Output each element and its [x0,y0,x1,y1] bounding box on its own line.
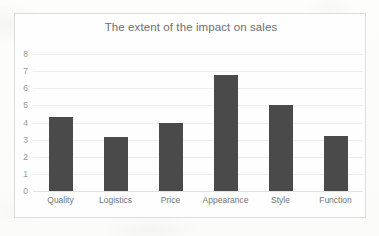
y-axis-tick-label: 6 [23,84,28,93]
y-axis-tick-label: 4 [23,118,28,127]
bar [159,123,183,192]
x-axis-tick-label: Function [319,195,352,205]
bar-series [33,54,363,191]
plot-area: 012345678 QualityLogisticsPriceAppearanc… [33,54,363,191]
chart-title: The extent of the impact on sales [15,21,367,33]
gridline [33,191,363,192]
y-axis-tick-label: 1 [23,170,28,179]
bar [49,117,73,191]
x-axis-tick-label: Logistics [99,195,132,205]
x-axis-tick-label: Price [161,195,180,205]
y-axis-tick-label: 8 [23,50,28,59]
bar [104,137,128,191]
y-axis-tick-label: 3 [23,135,28,144]
y-axis-tick-label: 7 [23,67,28,76]
bar [269,105,293,191]
x-axis-tick-label: Style [271,195,290,205]
y-axis-tick-label: 5 [23,101,28,110]
bar-slot [308,54,363,191]
bar-slot [33,54,88,191]
bar-slot [143,54,198,191]
y-axis-tick-label: 2 [23,153,28,162]
x-axis-tick-label: Appearance [203,195,249,205]
bar-slot [253,54,308,191]
bar [324,136,348,191]
y-axis-tick-label: 0 [23,187,28,196]
bar-slot [88,54,143,191]
x-axis-tick-label: Quality [47,195,73,205]
bar [214,75,238,191]
chart-frame: The extent of the impact on sales 012345… [14,13,366,218]
bar-slot [198,54,253,191]
